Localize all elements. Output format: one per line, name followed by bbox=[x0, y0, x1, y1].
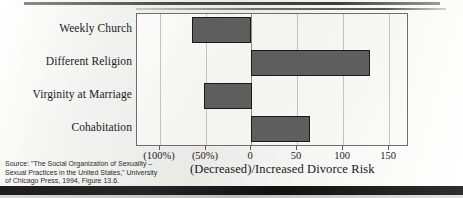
category-label-cohabitation: Cohabitation bbox=[2, 121, 132, 133]
gridline-4 bbox=[343, 14, 344, 145]
tick-label-2: 0 bbox=[247, 150, 252, 161]
tick-label-3: 50 bbox=[291, 150, 302, 161]
source-citation: Source: "The Social Organization of Sexu… bbox=[5, 160, 180, 186]
bar-virginity-at-marriage bbox=[204, 83, 252, 109]
bottom-divider-bar bbox=[0, 186, 463, 195]
x-axis-title: (Decreased)/Increased Divorce Risk bbox=[190, 162, 375, 177]
top-divider-rule-secondary bbox=[136, 8, 446, 10]
category-label-virginity-at-marriage: Virginity at Marriage bbox=[2, 88, 132, 100]
bar-different-religion bbox=[251, 50, 370, 76]
tick-label-1: (50%) bbox=[192, 150, 218, 161]
bottom-divider-highlight bbox=[0, 195, 463, 198]
gridline-0 bbox=[160, 14, 161, 145]
tick-label-4: 100 bbox=[334, 150, 350, 161]
source-citation-line-1: Sexual Practices in the United States," … bbox=[5, 169, 180, 178]
source-citation-line-0: Source: "The Social Organization of Sexu… bbox=[5, 160, 180, 169]
category-label-different-religion: Different Religion bbox=[2, 55, 132, 67]
slide-canvas: Weekly ChurchDifferent ReligionVirginity… bbox=[0, 0, 463, 198]
gridline-5 bbox=[389, 14, 390, 145]
bar-weekly-church bbox=[192, 17, 251, 43]
tick-label-5: 150 bbox=[380, 150, 396, 161]
source-citation-line-2: of Chicago Press, 1994, Figure 13.6. bbox=[5, 177, 180, 186]
bar-cohabitation bbox=[251, 116, 310, 142]
chart-plot-area bbox=[136, 13, 408, 146]
category-axis-labels: Weekly ChurchDifferent ReligionVirginity… bbox=[0, 13, 132, 146]
category-label-weekly-church: Weekly Church bbox=[2, 22, 132, 34]
top-divider-rule bbox=[24, 2, 440, 5]
